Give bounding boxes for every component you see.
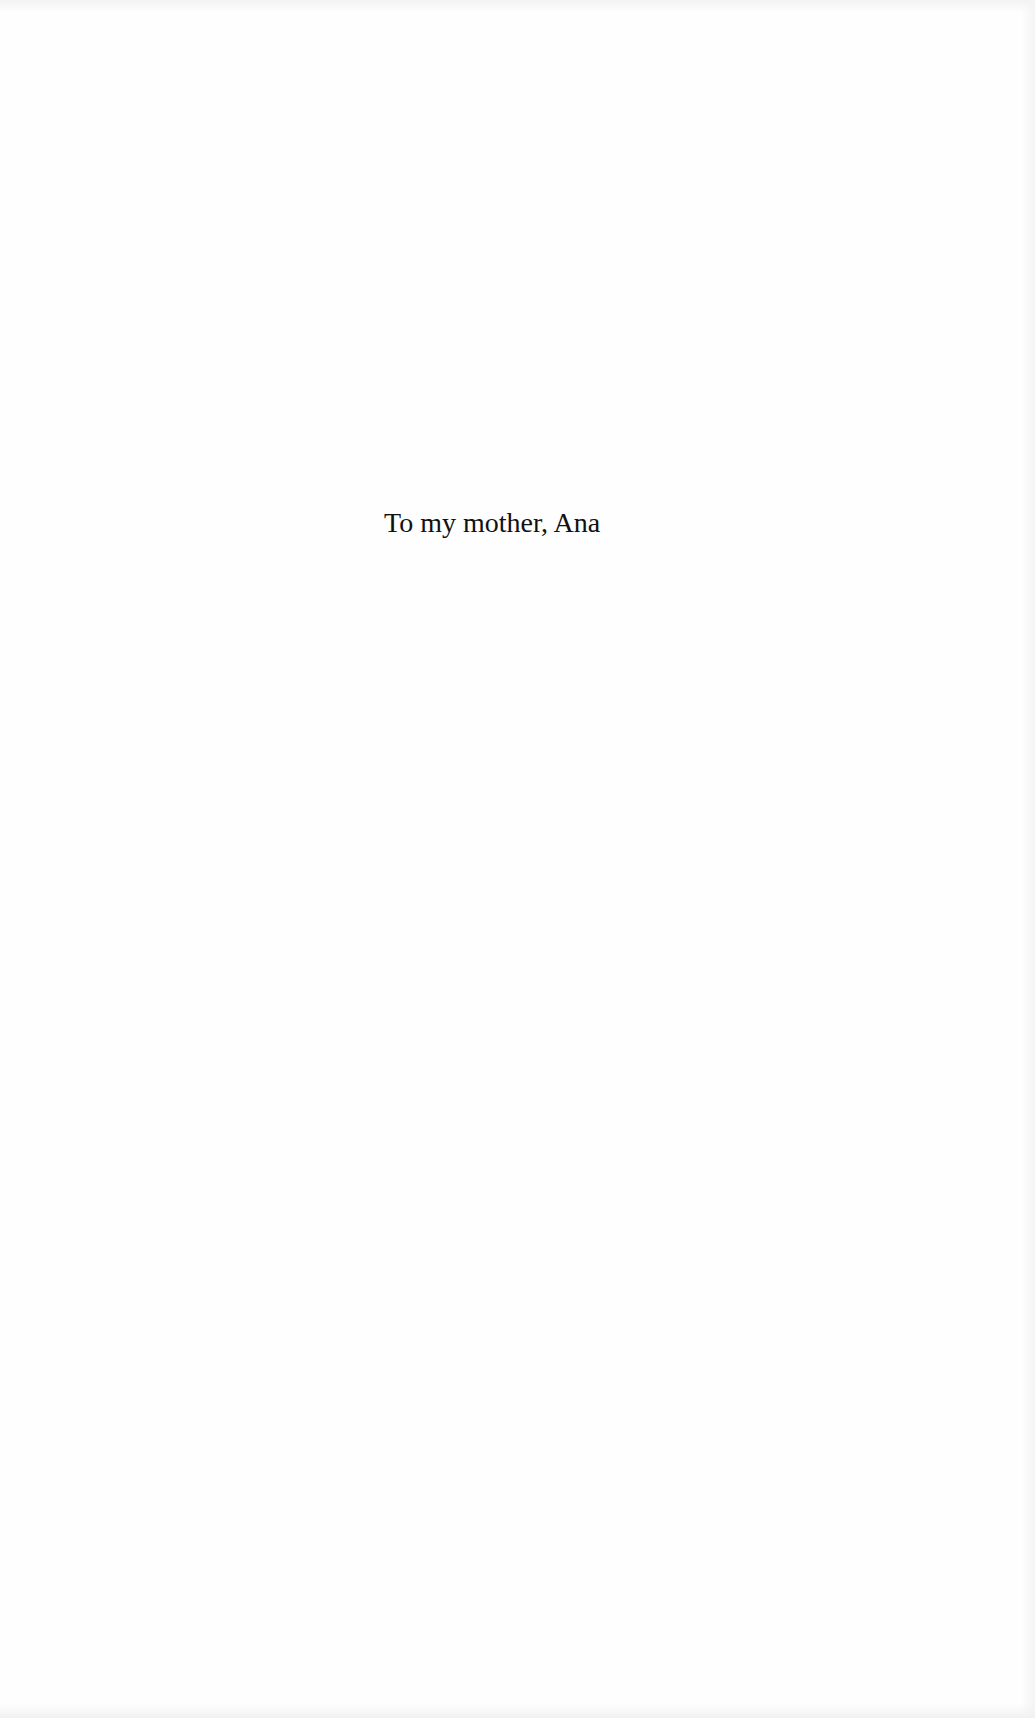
scan-edge-right	[1021, 0, 1035, 1718]
book-page: To my mother, Ana	[0, 0, 1035, 1718]
scan-edge-top	[0, 0, 1035, 12]
scan-edge-bottom	[0, 1704, 1035, 1718]
dedication-text: To my mother, Ana	[384, 506, 600, 540]
